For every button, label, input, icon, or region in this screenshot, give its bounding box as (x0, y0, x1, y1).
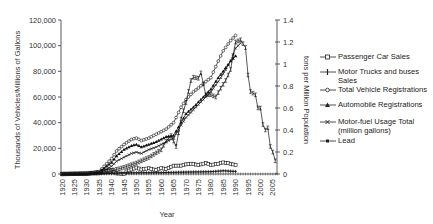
y2-axis-label: tons per Million Population (302, 56, 311, 144)
y-tick-label: 80,000 (33, 67, 56, 76)
x-tick-label: 1995 (244, 179, 253, 196)
x-tick-label: 1965 (169, 179, 178, 196)
x-tick-label: 1945 (120, 179, 129, 196)
legend-item-total-vehicle-registrations: Total Vehicle Registrations (320, 85, 433, 94)
legend-item-motor-trucks-buses-sales: Motor Trucks and buses Sales (320, 67, 433, 85)
x-marker-icon (320, 118, 336, 126)
y2-tick-label: 1 (283, 60, 287, 69)
plus-marker-icon (320, 68, 336, 76)
x-tick-label: 1925 (70, 179, 79, 196)
x-tick-label: 1920 (58, 179, 67, 196)
asterisk-marker-icon (320, 137, 336, 145)
x-tick-label: 1960 (157, 179, 166, 196)
legend-label: Total Vehicle Registrations (338, 85, 427, 94)
legend-label: Passenger Car Sales (338, 52, 410, 61)
series-total-vehicle-registrations (61, 34, 237, 175)
y2-tick-label: 0.4 (283, 126, 293, 135)
chart-series (60, 34, 276, 176)
y-tick-label: 20,000 (33, 144, 56, 153)
legend-item-lead: Lead (320, 136, 433, 145)
y2-tick-label: 0 (283, 170, 287, 179)
y-tick-label: 40,000 (33, 118, 56, 127)
y2-tick-label: 0.6 (283, 104, 293, 113)
x-axis-label: Year (159, 210, 175, 219)
legend-item-motor-fuel-usage: Motor-fuel Usage Total (million gallons) (320, 117, 433, 135)
legend-label: Lead (338, 136, 355, 145)
legend-item-passenger-car-sales: Passenger Car Sales (320, 52, 433, 61)
y-axis-label: Thousands of Vehicles/Millions of Gallon… (13, 31, 22, 170)
x-tick-label: 1930 (82, 179, 91, 196)
y-tick-label: 100,000 (29, 41, 56, 50)
legend-item-automobile-registrations: Automobile Registrations (320, 100, 433, 109)
y2-tick-label: 0.2 (283, 148, 293, 157)
y2-tick-label: 1.4 (283, 16, 293, 25)
triangle-marker-icon (320, 101, 336, 109)
x-tick-label: 1980 (206, 179, 215, 196)
x-tick-label: 2000 (256, 179, 265, 196)
y-tick-label: 120,000 (29, 16, 56, 25)
x-tick-label: 1955 (144, 179, 153, 196)
circle-open-marker-icon (320, 86, 336, 94)
legend-label: Motor-fuel Usage Total (million gallons) (338, 117, 433, 135)
x-tick-label: 1990 (231, 179, 240, 196)
y-tick-label: 0 (52, 170, 56, 179)
x-tick-label: 1950 (132, 179, 141, 196)
series-lead (61, 38, 277, 176)
x-tick-label: 1935 (95, 179, 104, 196)
legend-label: Motor Trucks and buses Sales (338, 67, 433, 85)
y-tick-label: 60,000 (33, 93, 56, 102)
x-tick-label: 1970 (182, 179, 191, 196)
legend-label: Automobile Registrations (338, 100, 422, 109)
x-tick-label: 1985 (219, 179, 228, 196)
x-tick-label: 1940 (107, 179, 116, 196)
square-open-marker-icon (320, 53, 336, 61)
y2-tick-label: 0.8 (283, 82, 293, 91)
x-tick-label: 2005 (268, 179, 277, 196)
chart-legend: Passenger Car Sales Motor Trucks and bus… (320, 52, 433, 151)
x-tick-label: 1975 (194, 179, 203, 196)
y2-tick-label: 1.2 (283, 38, 293, 47)
